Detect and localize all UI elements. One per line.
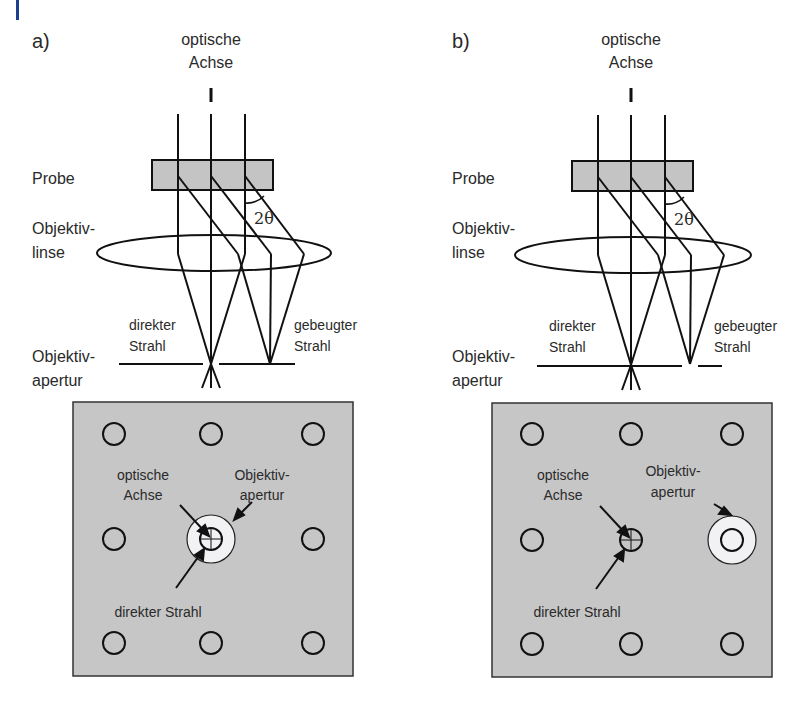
screen-aperture-label-line2: apertur [651, 484, 696, 500]
direct-beam-label-line2: Strahl [549, 339, 586, 355]
diffraction-contrast-figure: a) optische Achse Probe Objektiv- linse … [0, 0, 792, 701]
direct-beam-label-line1: direkter [549, 318, 596, 334]
lens-label-line1: Objektiv- [452, 220, 515, 237]
direct-beam-label-line2: Strahl [129, 338, 166, 354]
lens-label-line2: linse [32, 244, 65, 261]
panel-a: a) optische Achse Probe Objektiv- linse … [32, 30, 357, 676]
direct-beam-label-line1: direkter [129, 317, 176, 333]
specimen-label: Probe [452, 170, 495, 187]
screen-direct-beam-label: direkter Strahl [533, 604, 620, 620]
screen-optical-axis-label-line1: optische [537, 467, 589, 483]
angle-label: 2θ [254, 209, 274, 228]
aperture-label-line2: apertur [32, 372, 83, 389]
page-accent-bar [16, 0, 19, 20]
optical-axis-label-line2: Achse [609, 54, 654, 71]
screen-optical-axis-label-line2: Achse [544, 487, 583, 503]
optical-axis-label-line2: Achse [189, 54, 234, 71]
objective-aperture-hole [708, 516, 756, 564]
screen-aperture-label-line2: apertur [240, 487, 285, 503]
objective-lens [97, 235, 331, 271]
diffracted-beam-label-line1: gebeugter [294, 317, 357, 333]
screen-aperture-label-line1: Objektiv- [645, 463, 701, 479]
aperture-label-line2: apertur [452, 372, 503, 389]
lens-label-line1: Objektiv- [32, 220, 95, 237]
diffraction-pattern-screen: optische Achse Objektiv- apertur direkte… [73, 402, 353, 676]
screen-direct-beam-label: direkter Strahl [114, 604, 201, 620]
objective-lens [515, 237, 751, 273]
diffracted-beam-label-line1: gebeugter [714, 318, 777, 334]
aperture-label-line1: Objektiv- [32, 348, 95, 365]
panel-b: b) optische Achse Probe Objektiv- linse … [452, 30, 777, 677]
screen-optical-axis-label-line1: optische [117, 467, 169, 483]
optical-axis-label-line1: optische [601, 31, 661, 48]
specimen [152, 160, 273, 190]
specimen [572, 161, 693, 191]
panel-label: a) [32, 30, 50, 52]
screen-optical-axis-label-line2: Achse [124, 487, 163, 503]
optical-axis-label-line1: optische [181, 31, 241, 48]
specimen-label: Probe [32, 170, 75, 187]
angle-label: 2θ [674, 210, 694, 229]
diffracted-beam-label-line2: Strahl [714, 339, 751, 355]
diffracted-beam-label-line2: Strahl [294, 338, 331, 354]
lens-label-line2: linse [452, 244, 485, 261]
screen-aperture-label-line1: Objektiv- [234, 467, 290, 483]
panel-label: b) [452, 30, 470, 52]
aperture-label-line1: Objektiv- [452, 348, 515, 365]
diffraction-pattern-screen: optische Achse Objektiv- apertur direkte… [492, 403, 772, 677]
